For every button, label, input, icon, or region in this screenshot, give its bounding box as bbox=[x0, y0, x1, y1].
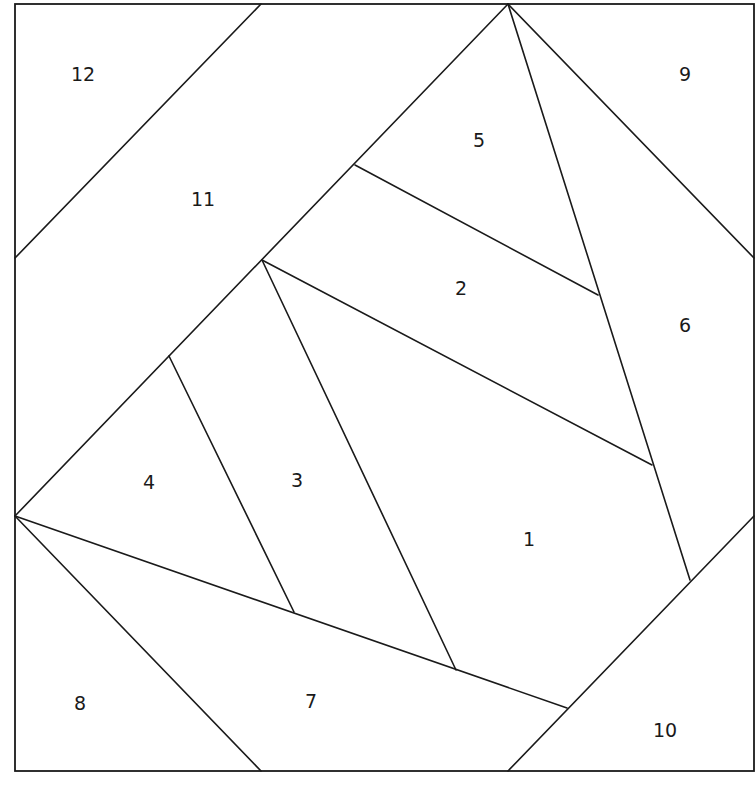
seam-3-1 bbox=[262, 260, 456, 670]
piece-label-7: 7 bbox=[305, 690, 317, 712]
pattern-diagram: 1 2 3 4 5 6 7 8 9 10 11 12 bbox=[0, 0, 756, 787]
seam-9-inner bbox=[508, 4, 754, 258]
piece-label-12: 12 bbox=[71, 63, 95, 85]
piece-label-8: 8 bbox=[74, 692, 86, 714]
seam-5-6 bbox=[508, 4, 690, 580]
seam-10-inner bbox=[508, 516, 754, 771]
piece-label-10: 10 bbox=[653, 719, 677, 741]
piece-label-11: 11 bbox=[191, 188, 215, 210]
piece-label-2: 2 bbox=[455, 277, 467, 299]
block-border bbox=[15, 4, 754, 771]
piece-label-4: 4 bbox=[143, 471, 155, 493]
piece-label-5: 5 bbox=[473, 129, 485, 151]
piece-label-9: 9 bbox=[679, 63, 691, 85]
seam-7-top bbox=[15, 516, 567, 708]
piece-label-1: 1 bbox=[523, 528, 535, 550]
seam-12-11 bbox=[15, 4, 261, 258]
piece-label-6: 6 bbox=[679, 314, 691, 336]
seam-8-7 bbox=[15, 516, 261, 771]
seam-5-2 bbox=[355, 165, 598, 295]
seam-4-3 bbox=[169, 356, 294, 612]
piece-label-3: 3 bbox=[291, 469, 303, 491]
